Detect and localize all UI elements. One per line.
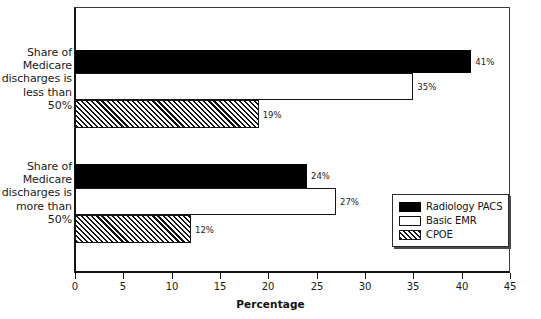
open-white-swatch-icon — [399, 216, 421, 226]
value-label-radiology-pacs-more-than-50: 24% — [311, 171, 330, 181]
x-tick-mark — [413, 273, 414, 279]
value-label-basic-emr-less-than-50: 35% — [417, 82, 436, 92]
x-tick-label: 20 — [253, 281, 283, 292]
x-axis-title: Percentage — [0, 298, 541, 310]
hatched-swatch-icon — [399, 230, 421, 240]
category-label-line: discharges is — [0, 72, 72, 85]
category-label-line: 50% — [0, 99, 72, 112]
category-label-line: 50% — [0, 213, 72, 226]
legend-item-basic-emr: Basic EMR — [399, 214, 503, 227]
bar-radiology-pacs-less-than-50 — [75, 50, 471, 73]
x-tick-label: 5 — [108, 281, 138, 292]
legend-item-radiology-pacs: Radiology PACS — [399, 200, 503, 213]
bar-chart: Share of Medicare discharges is less tha… — [0, 0, 541, 319]
x-tick-mark — [123, 273, 124, 279]
value-label-cpoe-less-than-50: 19% — [263, 110, 282, 120]
category-label-line: less than — [0, 86, 72, 99]
x-tick-label: 0 — [60, 281, 90, 292]
bar-cpoe-less-than-50 — [75, 100, 259, 128]
x-tick-label: 30 — [350, 281, 380, 292]
x-tick-mark — [220, 273, 221, 279]
x-tick-mark — [510, 273, 511, 279]
solid-black-swatch-icon — [399, 202, 421, 212]
category-label-more-than-50: Share of Medicare discharges is more tha… — [0, 160, 72, 226]
bar-radiology-pacs-more-than-50 — [75, 164, 307, 188]
value-label-basic-emr-more-than-50: 27% — [340, 197, 359, 207]
value-label-cpoe-more-than-50: 12% — [195, 225, 214, 235]
bar-basic-emr-more-than-50 — [75, 188, 336, 215]
x-tick-label: 25 — [302, 281, 332, 292]
category-label-line: Share of — [0, 46, 72, 59]
legend-item-cpoe: CPOE — [399, 228, 503, 241]
category-label-line: Medicare — [0, 59, 72, 72]
x-tick-mark — [268, 273, 269, 279]
category-label-line: Share of — [0, 160, 72, 173]
x-tick-label: 15 — [205, 281, 235, 292]
category-label-less-than-50: Share of Medicare discharges is less tha… — [0, 46, 72, 112]
value-label-radiology-pacs-less-than-50: 41% — [475, 57, 494, 67]
x-tick-label: 35 — [398, 281, 428, 292]
legend-label: Radiology PACS — [426, 201, 502, 212]
category-label-line: discharges is — [0, 186, 72, 199]
x-tick-label: 40 — [447, 281, 477, 292]
x-tick-mark — [172, 273, 173, 279]
x-tick-label: 45 — [495, 281, 525, 292]
category-label-line: more than — [0, 200, 72, 213]
category-label-line: Medicare — [0, 173, 72, 186]
x-tick-mark — [462, 273, 463, 279]
chart-legend: Radiology PACS Basic EMR CPOE — [392, 194, 509, 247]
x-tick-label: 10 — [157, 281, 187, 292]
x-tick-mark — [365, 273, 366, 279]
x-tick-mark — [75, 273, 76, 279]
bar-basic-emr-less-than-50 — [75, 73, 413, 100]
legend-label: Basic EMR — [426, 215, 477, 226]
bar-cpoe-more-than-50 — [75, 215, 191, 243]
legend-label: CPOE — [426, 229, 453, 240]
x-tick-mark — [317, 273, 318, 279]
